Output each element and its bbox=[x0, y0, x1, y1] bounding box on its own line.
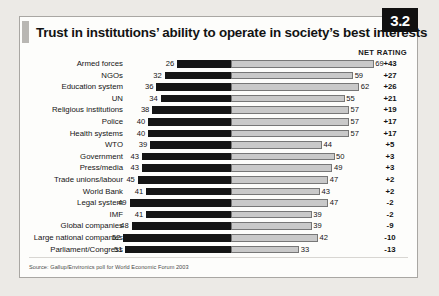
trust-value-label: 39 bbox=[313, 209, 321, 221]
chart-row: WTO3944+5 bbox=[20, 139, 417, 151]
row-category-label: NGOs bbox=[20, 70, 123, 82]
distrust-bar bbox=[150, 141, 231, 149]
distrust-value-label: 41 bbox=[135, 209, 143, 221]
trust-bar bbox=[231, 188, 320, 196]
chart-row: UN3455+21 bbox=[20, 93, 417, 105]
row-category-label: UN bbox=[20, 93, 123, 105]
chart-title: Trust in institutions’ ability to operat… bbox=[36, 25, 427, 40]
trust-bar bbox=[231, 199, 328, 207]
distrust-value-label: 32 bbox=[153, 70, 161, 82]
trust-value-label: 57 bbox=[350, 116, 358, 128]
distrust-bar bbox=[148, 130, 231, 138]
distrust-value-label: 48 bbox=[120, 220, 128, 232]
distrust-bar bbox=[148, 118, 231, 126]
trust-bar bbox=[231, 83, 359, 91]
trust-bar bbox=[231, 164, 332, 172]
trust-bar bbox=[231, 153, 335, 161]
distrust-bar bbox=[156, 83, 231, 91]
title-accent-bar bbox=[22, 21, 29, 43]
net-rating-value: -9 bbox=[373, 220, 407, 232]
figure-panel: Trust in institutions’ ability to operat… bbox=[19, 16, 418, 278]
chart-row: Armed forces2669+43 bbox=[20, 58, 417, 70]
chart-row: World Bank4143+2 bbox=[20, 186, 417, 198]
net-rating-value: +2 bbox=[373, 186, 407, 198]
row-category-label: Parliament/Congress bbox=[20, 244, 123, 256]
distrust-value-label: 34 bbox=[149, 93, 157, 105]
net-rating-value: -2 bbox=[373, 197, 407, 209]
distrust-bar bbox=[123, 234, 231, 242]
trust-bar bbox=[231, 234, 318, 242]
net-rating-column-header: NET RATING bbox=[358, 48, 407, 57]
row-category-label: Large national companies bbox=[20, 232, 123, 244]
distrust-bar bbox=[130, 199, 231, 207]
distrust-value-label: 49 bbox=[118, 197, 126, 209]
trust-bar bbox=[231, 60, 374, 68]
row-category-label: Religious institutions bbox=[20, 104, 123, 116]
distrust-bar bbox=[132, 222, 231, 230]
net-rating-value: +17 bbox=[373, 116, 407, 128]
figure-title-bar: Trust in institutions’ ability to operat… bbox=[20, 17, 417, 47]
distrust-value-label: 39 bbox=[139, 139, 147, 151]
trust-value-label: 59 bbox=[355, 70, 363, 82]
distrust-value-label: 40 bbox=[137, 116, 145, 128]
net-rating-value: +26 bbox=[373, 81, 407, 93]
distrust-bar bbox=[125, 246, 231, 254]
distrust-value-label: 43 bbox=[131, 162, 139, 174]
distrust-bar bbox=[165, 72, 231, 80]
trust-value-label: 47 bbox=[330, 197, 338, 209]
net-rating-value: +3 bbox=[373, 151, 407, 163]
distrust-bar bbox=[142, 153, 231, 161]
distrust-bar bbox=[152, 106, 231, 114]
trust-bar bbox=[231, 246, 299, 254]
row-category-label: Education system bbox=[20, 81, 123, 93]
distrust-value-label: 45 bbox=[126, 174, 134, 186]
source-note: Source: Gallup/Environics poll for World… bbox=[29, 264, 189, 270]
trust-value-label: 57 bbox=[350, 104, 358, 116]
trust-bar bbox=[231, 222, 312, 230]
row-category-label: Armed forces bbox=[20, 58, 123, 70]
distrust-value-label: 43 bbox=[131, 151, 139, 163]
distrust-value-label: 26 bbox=[166, 58, 174, 70]
trust-value-label: 44 bbox=[324, 139, 332, 151]
row-category-label: Trade unions/labour bbox=[20, 174, 123, 186]
trust-value-label: 50 bbox=[336, 151, 344, 163]
chart-row: Police4057+17 bbox=[20, 116, 417, 128]
chart-row: Large national companies5242-10 bbox=[20, 232, 417, 244]
trust-bar bbox=[231, 72, 353, 80]
distrust-bar bbox=[146, 188, 231, 196]
distrust-bar bbox=[146, 211, 231, 219]
trust-bar bbox=[231, 141, 322, 149]
chart-row: Education system3662+26 bbox=[20, 81, 417, 93]
net-rating-value: -10 bbox=[373, 232, 407, 244]
trust-value-label: 47 bbox=[330, 174, 338, 186]
chart-row: Legal system4947-2 bbox=[20, 197, 417, 209]
trust-bar bbox=[231, 95, 345, 103]
source-divider bbox=[29, 257, 408, 258]
row-category-label: Press/media bbox=[20, 162, 123, 174]
chart-rows-container: Armed forces2669+43NGOs3259+27Education … bbox=[20, 58, 417, 255]
distrust-bar bbox=[142, 164, 231, 172]
trust-bar bbox=[231, 130, 349, 138]
chart-row: Press/media4349+3 bbox=[20, 162, 417, 174]
trust-value-label: 33 bbox=[301, 244, 309, 256]
net-rating-value: -2 bbox=[373, 209, 407, 221]
trust-value-label: 57 bbox=[350, 128, 358, 140]
trust-value-label: 39 bbox=[313, 220, 321, 232]
trust-value-label: 49 bbox=[334, 162, 342, 174]
trust-value-label: 62 bbox=[361, 81, 369, 93]
row-category-label: Health systems bbox=[20, 128, 123, 140]
distrust-bar bbox=[161, 95, 231, 103]
row-category-label: Police bbox=[20, 116, 123, 128]
distrust-value-label: 36 bbox=[145, 81, 153, 93]
distrust-value-label: 41 bbox=[135, 186, 143, 198]
row-category-label: Legal system bbox=[20, 197, 123, 209]
chart-row: IMF4139-2 bbox=[20, 209, 417, 221]
net-rating-value: +5 bbox=[373, 139, 407, 151]
distrust-value-label: 52 bbox=[112, 232, 120, 244]
row-category-label: World Bank bbox=[20, 186, 123, 198]
chart-row: Religious institutions3857+19 bbox=[20, 104, 417, 116]
chart-row: Government4350+3 bbox=[20, 151, 417, 163]
chart-row: Global companies4839-9 bbox=[20, 220, 417, 232]
trust-value-label: 55 bbox=[346, 93, 354, 105]
net-rating-value: +3 bbox=[373, 162, 407, 174]
